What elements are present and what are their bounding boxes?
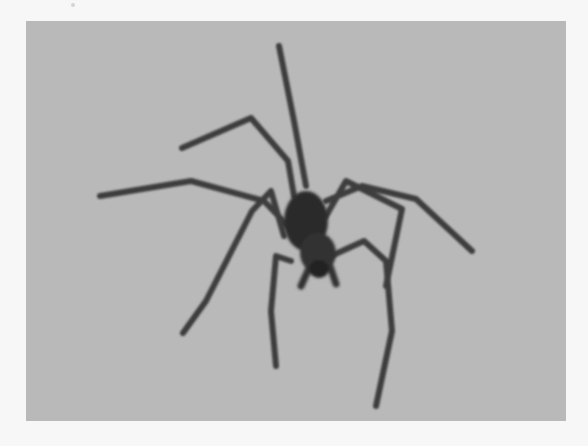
spider-photo — [26, 21, 566, 421]
spider-illustration — [26, 21, 566, 421]
show-through-text — [34, 424, 474, 432]
dust-speck — [71, 3, 75, 7]
